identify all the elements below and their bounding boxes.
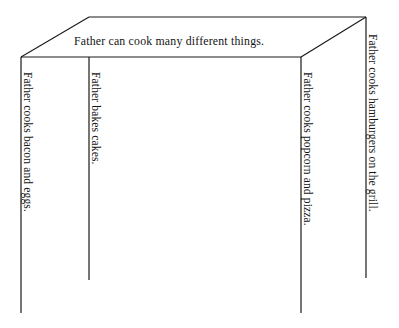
box-outline-lines	[0, 0, 399, 328]
panel-label-bacon-and-eggs: Father cooks bacon and eggs.	[22, 72, 34, 212]
diagram-title-text: Father can cook many different things.	[74, 36, 264, 48]
panel-label-popcorn-and-pizza: Father cooks popcorn and pizza.	[302, 72, 314, 226]
panel-label-hamburgers-on-grill: Father cooks hamburgers on the grill.	[367, 34, 379, 212]
box-diagram: Father can cook many different things. F…	[0, 0, 399, 328]
panel-label-bakes-cakes: Father bakes cakes.	[90, 72, 102, 165]
edge-diagonal-right	[301, 17, 366, 57]
